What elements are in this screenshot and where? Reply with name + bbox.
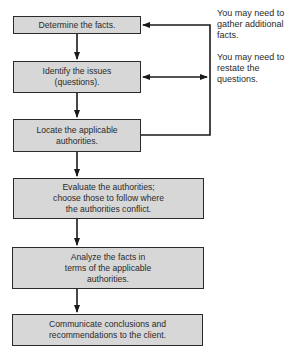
step-locate-authorities: Locate the applicable authorities. bbox=[13, 119, 141, 152]
step-identify-issues: Identify the issues (questions). bbox=[13, 61, 141, 93]
restate-questions-note: You may need to restate the questions. bbox=[217, 52, 295, 85]
step-evaluate-authorities: Evaluate the authorities; choose those t… bbox=[13, 178, 204, 219]
feedback-loop bbox=[141, 25, 210, 135]
step-determine-facts: Determine the facts. bbox=[13, 16, 141, 34]
step-communicate-conclusions: Communicate conclusions and recommendati… bbox=[12, 314, 203, 346]
flowchart-canvas: Determine the facts. Identify the issues… bbox=[0, 0, 295, 355]
gather-facts-note: You may need to gather additional facts. bbox=[217, 8, 295, 41]
step-analyze-facts: Analyze the facts in terms of the applic… bbox=[12, 247, 204, 289]
